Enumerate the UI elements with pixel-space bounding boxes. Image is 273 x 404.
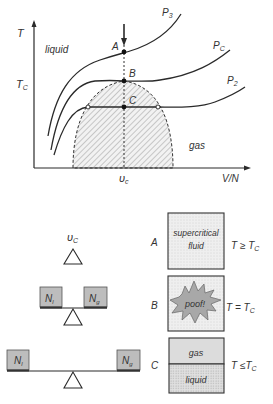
y-axis-label: T [17,27,25,39]
point-a [122,50,127,55]
diagram-canvas: T TC liquid gas υc V/N P3 PC P2 A B C υC… [0,0,273,404]
box-text: liquid [185,375,207,385]
point-b [122,79,127,84]
balance-section: υC Nl Ng Nl Ng [7,231,140,388]
pivot-vc-label: υC [67,231,79,244]
isobar-pc-label: PC [213,40,226,52]
state-c: C gas liquid T ≤TC [151,338,257,393]
x-axis-arrow-icon [244,166,251,171]
box-text: fluid [188,241,204,251]
condition-a: T ≥ TC [231,240,260,252]
point-b-label: B [129,68,136,79]
coexist-gas-point [156,105,160,109]
tc-tick-label: TC [16,78,29,91]
down-arrow-icon [121,38,127,46]
pivot-bottom-triangle-icon [64,372,82,388]
state-b-label: B [151,300,158,311]
state-a-label: A [150,237,158,248]
y-axis-arrow-icon [32,20,37,27]
box-text: gas [189,348,204,358]
state-b: B poof! T = TC [151,276,256,331]
condition-c: T ≤TC [231,360,257,372]
pivot-middle-triangle-icon [64,309,82,325]
phase-diagram: T TC liquid gas υc V/N P3 PC P2 A B C [16,7,251,185]
coexist-liquid-point [86,105,90,109]
state-boxes: A supercritical fluid T ≥ TC B poof! T =… [150,213,260,393]
box-text: supercritical [173,228,219,238]
point-a-label: A [111,41,119,52]
balance-bottom: Nl Ng [7,350,140,388]
pivot-top-triangle-icon [64,249,82,264]
isobar-p2-label: P2 [227,75,238,87]
condition-b: T = TC [226,302,256,314]
isobar-p3-label: P3 [162,7,173,19]
state-a: A supercritical fluid T ≥ TC [150,213,260,269]
region-gas-label: gas [189,140,205,151]
balance-middle: Nl Ng [40,287,107,325]
point-c [122,105,127,110]
box-text: poof! [184,299,206,309]
x-axis-label: V/N [222,173,239,184]
state-c-label: C [151,360,159,371]
vc-tick-label: υc [119,172,129,185]
region-liquid-label: liquid [45,44,69,55]
coexistence-dome [73,81,173,168]
point-c-label: C [129,95,137,106]
